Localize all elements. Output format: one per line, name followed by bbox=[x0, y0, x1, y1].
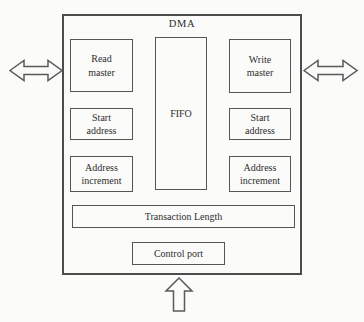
bottom-up-arrow-icon bbox=[164, 277, 194, 312]
address-increment-left-block: Address increment bbox=[70, 156, 133, 192]
right-bidirectional-arrow-icon bbox=[303, 58, 358, 83]
read-master-block: Read master bbox=[70, 39, 133, 92]
start-address-left-block: Start address bbox=[70, 108, 133, 140]
transaction-length-block: Transaction Length bbox=[72, 205, 295, 228]
left-bidirectional-arrow-icon bbox=[9, 58, 63, 83]
address-increment-right-block: Address increment bbox=[229, 156, 291, 192]
start-address-right-block: Start address bbox=[229, 108, 291, 140]
diagram-title: DMA bbox=[64, 18, 300, 29]
fifo-block: FIFO bbox=[155, 37, 207, 190]
control-port-block: Control port bbox=[132, 242, 225, 265]
dma-block-diagram: DMA Read master Write master FIFO Start … bbox=[0, 0, 364, 322]
write-master-block: Write master bbox=[229, 39, 291, 93]
